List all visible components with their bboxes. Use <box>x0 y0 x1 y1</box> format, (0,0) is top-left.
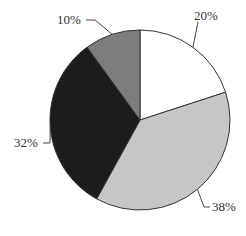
slice-label: 20% <box>194 8 218 23</box>
slice-label: 32% <box>14 135 38 150</box>
leader-line <box>43 126 50 143</box>
slice-label: 38% <box>212 199 236 214</box>
leader-line <box>86 20 112 34</box>
leader-line <box>193 22 198 47</box>
slice-label: 10% <box>57 12 81 27</box>
pie-slices <box>50 30 230 210</box>
pie-chart: 20%38%32%10% <box>0 0 246 236</box>
leader-line <box>197 189 210 207</box>
